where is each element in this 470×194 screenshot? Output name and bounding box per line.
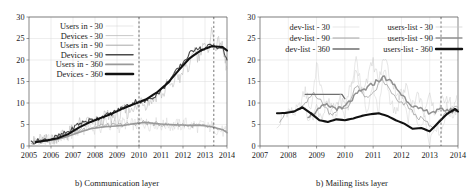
right-ytick-labels: 051015202530 bbox=[247, 13, 255, 151]
chart-panel-mailing-lists-layer: 051015202530 200720082009201020112012201… bbox=[235, 0, 470, 194]
right-xtick-2008: 2008 bbox=[280, 151, 296, 160]
right-xtick-2014: 2014 bbox=[450, 151, 466, 160]
right-ytick-0: 0 bbox=[251, 142, 255, 151]
left-xtick-labels: 2005200620072008200920102011201220132014 bbox=[21, 151, 235, 160]
right-legend-label-0-0: dev-list - 30 bbox=[290, 23, 330, 32]
left-xtick-2009: 2009 bbox=[109, 151, 125, 160]
left-ytick-25: 25 bbox=[16, 34, 24, 43]
right-xtick-2010: 2010 bbox=[337, 151, 353, 160]
right-legend-label-1-2: users-list - 360 bbox=[383, 45, 433, 54]
right-xtick-2007: 2007 bbox=[252, 151, 268, 160]
left-legend-label-4: Users in - 360 bbox=[56, 60, 103, 69]
right-xtick-2009: 2009 bbox=[308, 151, 324, 160]
left-xtick-2014: 2014 bbox=[219, 151, 235, 160]
left-legend[interactable]: Users in - 30Devices - 30Users in - 90De… bbox=[56, 22, 133, 79]
left-xtick-2005: 2005 bbox=[21, 151, 37, 160]
right-legend-label-1-0: users-list - 30 bbox=[387, 23, 433, 32]
caption-mailing-lists-layer: b) Mailing lists layer bbox=[316, 178, 388, 188]
left-ytick-15: 15 bbox=[16, 77, 24, 86]
right-ytick-25: 25 bbox=[247, 34, 255, 43]
right-legend-label-0-1: dev-list - 90 bbox=[290, 34, 330, 43]
left-legend-label-0: Users in - 30 bbox=[60, 22, 103, 31]
left-grid bbox=[29, 17, 227, 146]
right-xtick-2011: 2011 bbox=[365, 151, 381, 160]
left-xtick-2008: 2008 bbox=[87, 151, 103, 160]
right-xtick-labels: 20072008200920102011201220132014 bbox=[252, 151, 466, 160]
left-xtick-2011: 2011 bbox=[153, 151, 169, 160]
left-ytick-labels: 051015202530 bbox=[16, 13, 24, 151]
right-ytick-20: 20 bbox=[247, 56, 255, 65]
right-legend-label-1-1: users-list - 90 bbox=[387, 34, 433, 43]
left-legend-label-3: Devices - 90 bbox=[61, 51, 103, 60]
left-ytick-30: 30 bbox=[16, 13, 24, 22]
left-ytick-5: 5 bbox=[20, 120, 24, 129]
left-xtick-2010: 2010 bbox=[131, 151, 147, 160]
chart-panel-communication-layer: 051015202530 200520062007200820092010201… bbox=[0, 0, 235, 194]
figure-container: 051015202530 200520062007200820092010201… bbox=[0, 0, 470, 194]
right-ytick-15: 15 bbox=[247, 77, 255, 86]
caption-communication-layer: b) Communication layer bbox=[75, 178, 159, 188]
left-ytick-0: 0 bbox=[20, 142, 24, 151]
left-legend-label-2: Users in - 90 bbox=[60, 41, 103, 50]
right-series bbox=[277, 56, 458, 145]
right-legend-label-0-2: dev-list - 360 bbox=[285, 45, 330, 54]
left-xtick-2012: 2012 bbox=[175, 151, 191, 160]
right-ytick-10: 10 bbox=[247, 99, 255, 108]
right-ytick-30: 30 bbox=[247, 13, 255, 22]
right-xtick-2013: 2013 bbox=[422, 151, 438, 160]
left-legend-label-5: Devices - 360 bbox=[56, 70, 103, 79]
left-ytick-20: 20 bbox=[16, 56, 24, 65]
mailing-lists-layer-chart: 051015202530 200720082009201020112012201… bbox=[235, 0, 470, 194]
left-xtick-2006: 2006 bbox=[43, 151, 59, 160]
left-xtick-2013: 2013 bbox=[197, 151, 213, 160]
right-ytick-5: 5 bbox=[251, 120, 255, 129]
left-xtick-2007: 2007 bbox=[65, 151, 81, 160]
left-legend-label-1: Devices - 30 bbox=[61, 32, 103, 41]
right-series-dev-list-30 bbox=[277, 56, 458, 145]
left-series-users-in-30 bbox=[31, 117, 227, 146]
right-xtick-2012: 2012 bbox=[393, 151, 409, 160]
communication-layer-chart: 051015202530 200520062007200820092010201… bbox=[0, 0, 235, 194]
left-ytick-10: 10 bbox=[16, 99, 24, 108]
